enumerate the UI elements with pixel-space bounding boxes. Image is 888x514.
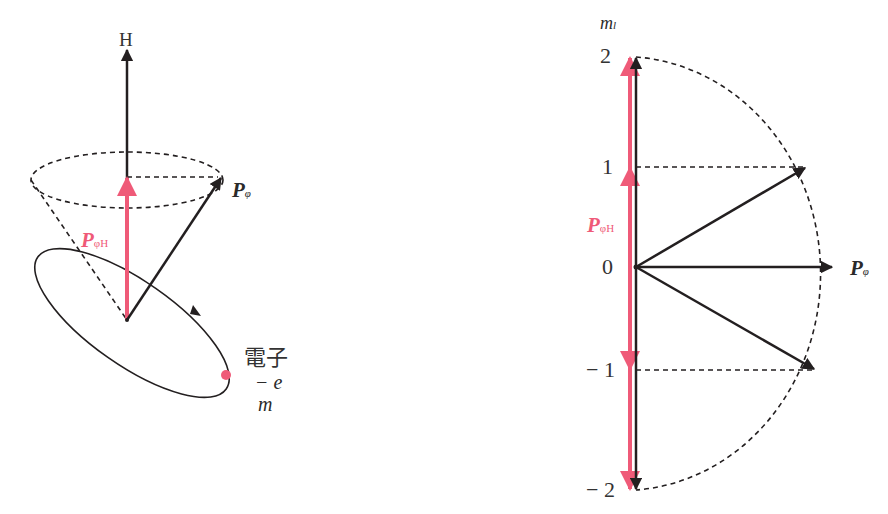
electron-orbit (14, 223, 251, 424)
momentum-label-left: Pφ (232, 180, 251, 201)
quantization-arc-dashed (636, 57, 821, 490)
projection-label-left: PφH (81, 230, 108, 251)
quantization-diagram (630, 57, 832, 490)
vector-ml-1 (636, 168, 805, 267)
tick-label-0: 0 (602, 256, 613, 278)
field-label-h: H (119, 30, 133, 49)
axis-label-ml: ml (600, 14, 616, 32)
electron-label: 電子 (244, 347, 288, 369)
tick-label-2: 2 (600, 45, 611, 67)
orbit-direction-arrow-icon (190, 305, 201, 316)
mass-label: m (258, 394, 272, 414)
momentum-vector-arrow (127, 178, 221, 320)
projection-label-right: PφH (587, 215, 614, 236)
tick-label-1: 1 (602, 156, 613, 178)
tick-label-minus1: − 1 (586, 359, 615, 381)
electron-dot (221, 370, 231, 380)
vector-ml-minus1 (636, 267, 814, 369)
precession-diagram (14, 50, 251, 423)
tick-label-minus2: − 2 (586, 479, 615, 501)
momentum-label-right: Pφ (850, 258, 869, 279)
origin-point (125, 318, 129, 322)
cone-edge-dashed (31, 180, 127, 320)
diagram-canvas (0, 0, 888, 514)
origin-point-right (634, 265, 639, 270)
charge-label: − e (255, 372, 282, 392)
